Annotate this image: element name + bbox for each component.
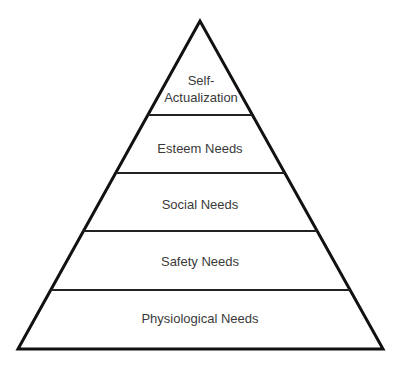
level-safety-label: Safety Needs (161, 254, 240, 269)
level-esteem-label: Esteem Needs (157, 141, 243, 156)
level-social-label: Social Needs (162, 197, 239, 212)
level-self-actualization-label-2: Actualization (164, 90, 238, 105)
level-physiological-label: Physiological Needs (141, 311, 259, 326)
pyramid-outline (18, 21, 383, 349)
level-self-actualization-label-1: Self- (188, 73, 215, 88)
pyramid-diagram: Self- Actualization Esteem Needs Social … (0, 0, 403, 370)
